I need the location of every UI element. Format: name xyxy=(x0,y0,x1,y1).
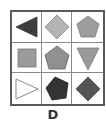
pentagon-icon xyxy=(75,14,101,40)
triangle-down-icon xyxy=(75,45,101,71)
triangle-right-icon xyxy=(14,76,40,102)
cell-r3-c1 xyxy=(12,73,42,104)
cell-r2-c1 xyxy=(12,43,42,73)
cell-r3-c3 xyxy=(72,73,103,104)
cell-r2-c2 xyxy=(42,43,72,73)
cell-r1-c2 xyxy=(42,12,72,43)
diamond-icon xyxy=(75,76,101,102)
triangle-left-icon xyxy=(14,14,40,40)
option-label: D xyxy=(0,107,106,123)
answer-option-grid[interactable] xyxy=(10,10,105,106)
diamond-icon xyxy=(44,14,70,40)
cell-r1-c1 xyxy=(12,12,42,43)
cell-r3-c2 xyxy=(42,73,72,104)
pentagon-icon xyxy=(44,76,70,102)
square-icon xyxy=(14,45,40,71)
cell-r1-c3 xyxy=(72,12,103,43)
pentagon-icon xyxy=(44,45,70,71)
cell-r2-c3 xyxy=(72,43,103,73)
